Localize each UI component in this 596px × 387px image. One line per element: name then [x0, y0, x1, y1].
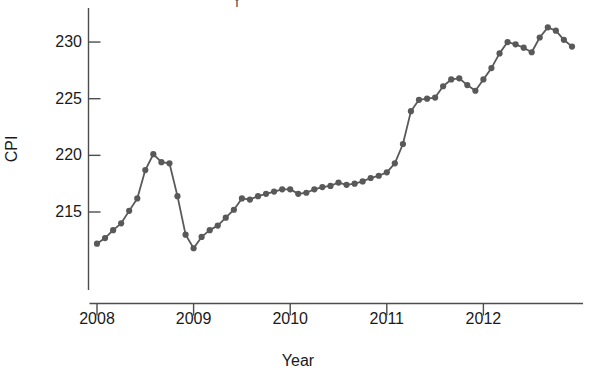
data-point [529, 49, 535, 55]
data-point [263, 191, 269, 197]
cropped-title-fragment: I [233, 0, 241, 7]
data-point [271, 189, 277, 195]
data-point [537, 34, 543, 40]
data-point [512, 41, 518, 47]
data-point [207, 227, 213, 233]
data-point [182, 232, 188, 238]
data-point [287, 186, 293, 192]
data-point [472, 88, 478, 94]
data-point [319, 184, 325, 190]
data-point [223, 215, 229, 221]
data-point [303, 190, 309, 196]
data-point [231, 207, 237, 213]
data-point [134, 195, 140, 201]
data-point [384, 169, 390, 175]
data-point [174, 193, 180, 199]
plot-area [0, 0, 596, 387]
data-point [126, 208, 132, 214]
data-point [191, 245, 197, 251]
data-point [255, 193, 261, 199]
data-point [480, 76, 486, 82]
data-point [464, 82, 470, 88]
data-point [343, 182, 349, 188]
data-point [166, 160, 172, 166]
data-point [158, 159, 164, 165]
data-point [102, 235, 108, 241]
data-point [408, 108, 414, 114]
y-axis-ticks [89, 42, 101, 212]
data-point [553, 28, 559, 34]
data-point [110, 227, 116, 233]
data-point [456, 75, 462, 81]
x-axis-tick-label: 2010 [255, 310, 325, 328]
data-point [335, 179, 341, 185]
data-point [327, 183, 333, 189]
x-axis-tick-label: 2012 [448, 310, 518, 328]
data-point [311, 186, 317, 192]
data-point [416, 97, 422, 103]
data-point [432, 94, 438, 100]
data-point [545, 24, 551, 30]
data-point [118, 220, 124, 226]
data-point [247, 196, 253, 202]
y-axis-tick-label: 215 [36, 204, 82, 220]
x-axis-tick-label: 2011 [352, 310, 422, 328]
data-point [94, 241, 100, 247]
x-axis-tick-label: 2009 [159, 310, 229, 328]
cpi-line-chart-figure: I CPI Year 215220225230 2008200920102011… [0, 0, 596, 387]
series-markers-cpi [94, 24, 575, 251]
data-point [279, 186, 285, 192]
data-point [295, 191, 301, 197]
y-axis-title: CPI [3, 119, 21, 179]
data-point [360, 178, 366, 184]
data-point [521, 45, 527, 51]
data-point [199, 234, 205, 240]
data-point [368, 175, 374, 181]
data-point [561, 37, 567, 43]
x-axis-title: Year [0, 352, 596, 370]
data-point [392, 160, 398, 166]
data-point [448, 76, 454, 82]
data-point [569, 43, 575, 49]
series-line-cpi [97, 27, 572, 248]
data-point [352, 181, 358, 187]
y-axis-tick-label: 220 [36, 147, 82, 163]
data-point [376, 173, 382, 179]
data-point [150, 151, 156, 157]
data-point [496, 50, 502, 56]
data-point [488, 65, 494, 71]
data-point [504, 39, 510, 45]
data-point [239, 195, 245, 201]
data-point [215, 223, 221, 229]
x-axis-tick-label: 2008 [62, 310, 132, 328]
data-point [400, 141, 406, 147]
y-axis-tick-label: 225 [36, 91, 82, 107]
y-axis-tick-label: 230 [36, 34, 82, 50]
data-point [424, 96, 430, 102]
data-series-cpi [94, 24, 575, 251]
data-point [440, 83, 446, 89]
data-point [142, 167, 148, 173]
